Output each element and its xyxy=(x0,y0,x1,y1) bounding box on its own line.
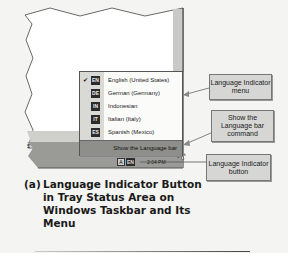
check-icon: ✔ xyxy=(83,74,88,87)
caption-line-3: Windows Taskbar and Its xyxy=(24,204,204,217)
bottom-rule-divider xyxy=(35,251,250,252)
callout-show-language-bar-command: Show the Language bar command xyxy=(211,110,274,142)
language-code-icon: IT xyxy=(91,115,100,124)
figure-label: (a) xyxy=(24,178,43,191)
menu-item-label: Spanish (Mexico) xyxy=(108,126,154,139)
callout-language-indicator-menu: Language Indicator menu xyxy=(209,74,272,100)
menu-item-label: Italian (Italy) xyxy=(108,113,141,126)
menu-item-english[interactable]: ✔ EN English (United States) xyxy=(80,74,182,87)
language-code-icon: EN xyxy=(91,76,100,85)
caption-line-2: in Tray Status Area on xyxy=(24,191,204,204)
figure-caption: (a)Language Indicator Button in Tray Sta… xyxy=(24,178,204,230)
callout-language-indicator-button: Language Indicator button xyxy=(206,154,271,181)
menu-item-spanish[interactable]: ES Spanish (Mexico) xyxy=(80,126,182,139)
menu-item-label: Indonesian xyxy=(108,100,137,113)
menu-item-label: English (United States) xyxy=(108,74,169,87)
language-indicator-button[interactable]: EN xyxy=(126,158,135,166)
taskbar-fragment-text: 5 xyxy=(27,143,30,149)
language-code-icon: DE xyxy=(91,89,100,98)
menu-item-german[interactable]: DE German (Germany) xyxy=(80,87,182,100)
language-code-icon: ES xyxy=(91,128,100,137)
figure: 5 ✔ EN English (United States) DE German… xyxy=(0,0,288,253)
input-helper-icon[interactable]: A xyxy=(117,158,125,166)
show-language-bar-command[interactable]: Show the Language bar xyxy=(80,141,182,156)
language-indicator-menu: ✔ EN English (United States) DE German (… xyxy=(79,71,183,156)
menu-item-italian[interactable]: IT Italian (Italy) xyxy=(80,113,182,126)
menu-item-indonesian[interactable]: IN Indonesian xyxy=(80,100,182,113)
caption-line-1: (a)Language Indicator Button xyxy=(24,178,204,191)
tray-clock[interactable]: 2:04 PM xyxy=(147,157,166,167)
caption-line-4: Menu xyxy=(24,217,204,230)
menu-item-label: German (Germany) xyxy=(108,87,160,100)
tray-status-area: A EN 2:04 PM xyxy=(117,157,177,167)
language-code-icon: IN xyxy=(91,102,100,111)
